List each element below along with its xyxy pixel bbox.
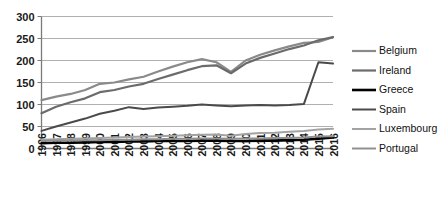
chart-legend: BelgiumIrelandGreeceSpainLuxembourgPortu… [352,44,438,154]
legend-label-ireland: Ireland [379,64,411,76]
chart-canvas: 050100150200250300 199619971998199920002… [0,0,448,197]
x-tick-label: 2008 [211,133,223,157]
x-tick-label: 1999 [80,133,92,157]
x-tick-label: 2011 [255,134,267,157]
y-tick-label: 250 [16,33,34,45]
series-line-spain [42,62,334,131]
y-tick-label: 50 [22,121,34,133]
y-tick-label: 0 [28,143,34,155]
legend-label-spain: Spain [379,103,406,115]
x-tick-label: 2000 [94,133,106,157]
legend-label-belgium: Belgium [379,44,417,56]
x-axis: 1996199719981999200020012002200320042005… [36,133,340,157]
x-tick-label: 2007 [196,133,208,157]
series-line-ireland [42,37,334,113]
series-line-belgium [42,37,334,100]
legend-label-greece: Greece [379,83,414,95]
y-tick-label: 150 [16,77,34,89]
x-tick-label: 1996 [36,133,48,157]
series-lines [42,37,334,143]
x-tick-label: 2010 [240,133,252,157]
x-tick-label: 2006 [182,133,194,157]
gridlines [42,17,334,149]
y-tick-label: 200 [16,55,34,67]
x-tick-label: 2013 [284,133,296,157]
x-tick-label: 1998 [65,133,77,157]
legend-label-portugal: Portugal [379,142,418,154]
line-chart: 050100150200250300 199619971998199920002… [0,0,448,197]
y-tick-label: 100 [16,99,34,111]
x-tick-label: 2012 [269,133,281,157]
legend-label-luxembourg: Luxembourg [379,122,438,134]
y-axis: 050100150200250300 [16,11,41,155]
y-tick-label: 300 [16,11,34,23]
x-tick-label: 1997 [51,133,63,157]
